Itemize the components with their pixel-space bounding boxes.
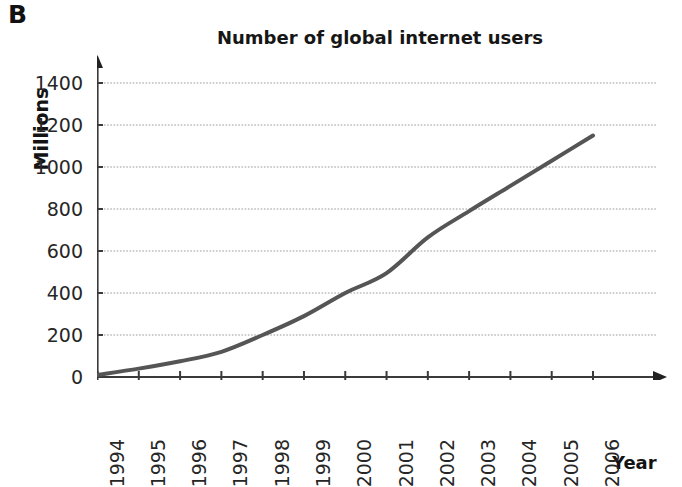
x-tick-label: 2004 <box>518 439 540 487</box>
x-tick-label: 1997 <box>229 439 251 487</box>
x-tick-label: 1998 <box>271 439 293 487</box>
x-tick-label: 1995 <box>147 439 169 487</box>
x-tick-label: 2001 <box>395 439 417 487</box>
x-tick-label: 2005 <box>560 439 582 487</box>
x-tick-label: 2006 <box>601 439 623 487</box>
x-tick-label: 1999 <box>312 439 334 487</box>
x-tick-label: 1996 <box>188 439 210 487</box>
x-tick-label: 2002 <box>436 439 458 487</box>
x-tick-label: 1994 <box>106 439 128 487</box>
x-tick-label: 2000 <box>353 439 375 487</box>
x-tick-label: 2003 <box>477 439 499 487</box>
